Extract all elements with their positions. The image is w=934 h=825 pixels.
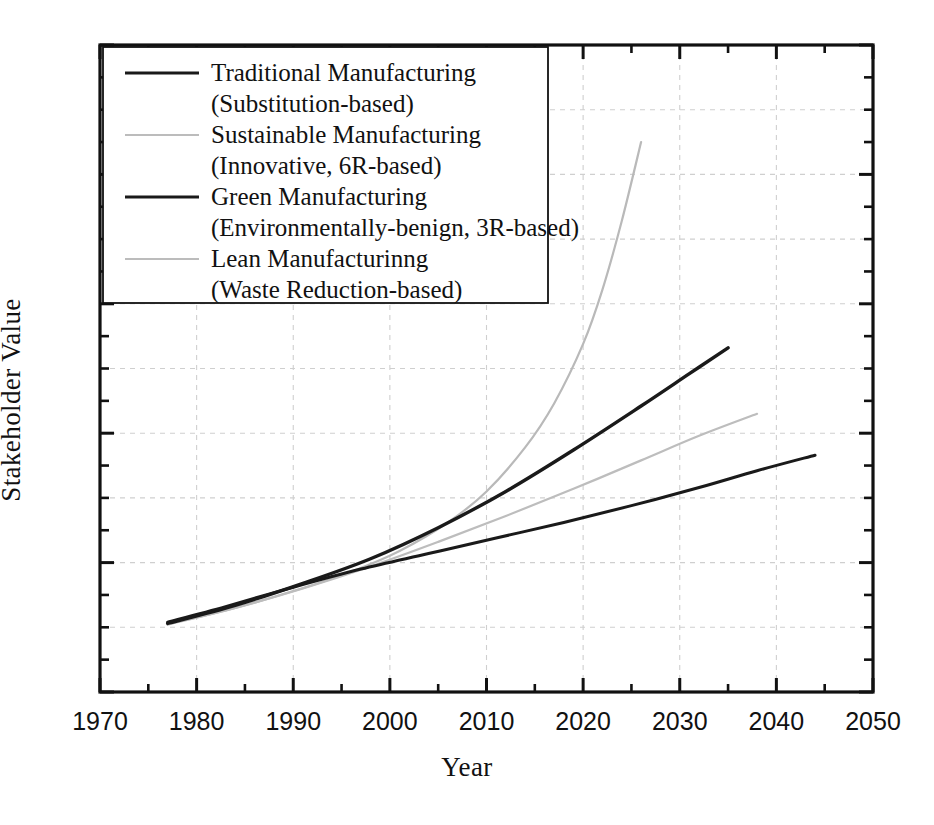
chart-canvas: 197019801990200020102020203020402050 Tra… — [0, 0, 934, 825]
legend-item-sublabel: (Innovative, 6R-based) — [211, 152, 441, 180]
legend-item-label: Traditional Manufacturing — [211, 59, 477, 86]
x-tick-label: 2020 — [555, 707, 611, 735]
legend-item-label: Sustainable Manufacturing — [211, 121, 482, 148]
legend-item-sublabel: (Waste Reduction-based) — [211, 276, 462, 304]
x-tick-label: 1970 — [72, 707, 128, 735]
x-axis-title: Year — [0, 752, 934, 783]
legend: Traditional Manufacturing(Substitution-b… — [103, 47, 579, 304]
series-line — [168, 348, 728, 624]
legend-item-sublabel: (Environmentally-benign, 3R-based) — [211, 214, 579, 242]
x-tick-label: 2050 — [845, 707, 901, 735]
x-tick-label: 2030 — [652, 707, 708, 735]
x-tick-labels-group: 197019801990200020102020203020402050 — [72, 707, 901, 735]
y-axis-title: Stakeholder Value — [0, 250, 27, 550]
series-line — [168, 414, 757, 624]
legend-item-label: Lean Manufacturinng — [211, 245, 429, 272]
x-tick-label: 2010 — [459, 707, 515, 735]
x-tick-label: 2000 — [362, 707, 418, 735]
x-tick-label: 1980 — [169, 707, 225, 735]
x-tick-label: 2040 — [749, 707, 805, 735]
figure: 197019801990200020102020203020402050 Tra… — [0, 0, 934, 825]
x-tick-label: 1990 — [265, 707, 321, 735]
legend-item-label: Green Manufacturing — [211, 183, 427, 210]
legend-item-sublabel: (Substitution-based) — [211, 90, 414, 118]
